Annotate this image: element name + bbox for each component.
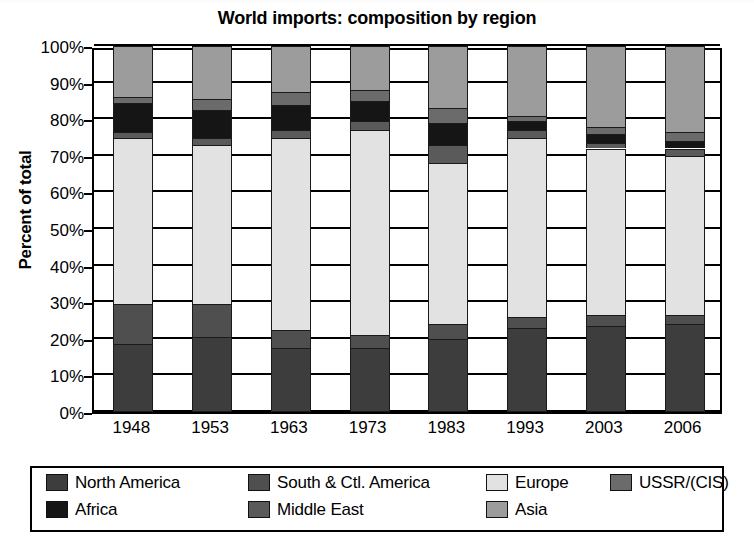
x-tick-label: 1963 [250,418,329,438]
bar-column[interactable] [507,50,547,412]
bar-segment[interactable] [271,138,311,330]
legend-swatch-icon [486,501,508,518]
bar-segment[interactable] [665,324,705,412]
bar-segment[interactable] [428,123,468,145]
gridline [94,227,720,229]
gridline [94,264,720,266]
bar-segment[interactable] [350,121,390,130]
legend-item[interactable]: Europe [486,474,569,491]
bar-column[interactable] [192,50,232,412]
bar-segment[interactable] [271,46,311,92]
bar-segment[interactable] [192,145,232,304]
bar-segment[interactable] [350,348,390,412]
legend-item[interactable]: Africa [46,501,117,518]
y-tick-label: 0% [0,404,92,424]
bar-segment[interactable] [507,138,547,317]
stacked-bar[interactable] [507,50,547,412]
bar-segment[interactable] [192,337,232,412]
bar-column[interactable] [665,50,705,412]
bar-segment[interactable] [113,138,153,305]
bar-column[interactable] [113,50,153,412]
bar-segment[interactable] [507,116,547,121]
bar-segment[interactable] [507,328,547,412]
stacked-bar[interactable] [586,50,626,412]
bar-segment[interactable] [586,315,626,326]
bar-segment[interactable] [665,141,705,148]
bar-segment[interactable] [350,335,390,348]
y-tick-mark [84,84,92,86]
bar-segment[interactable] [507,317,547,328]
y-tick-mark [84,47,92,49]
x-axis-labels: 19481953196319731983199320032006 [92,418,722,448]
stacked-bar[interactable] [113,50,153,412]
bar-segment[interactable] [507,46,547,116]
bar-segment[interactable] [113,132,153,137]
bar-column[interactable] [271,50,311,412]
bar-segment[interactable] [113,97,153,102]
bar-segment[interactable] [665,132,705,141]
bar-column[interactable] [350,50,390,412]
bar-segment[interactable] [665,149,705,156]
bar-segment[interactable] [586,143,626,148]
x-tick-label: 1948 [92,418,171,438]
legend-swatch-icon [610,474,632,491]
bar-segment[interactable] [271,105,311,131]
bar-segment[interactable] [586,149,626,316]
bar-segment[interactable] [271,130,311,137]
bar-segment[interactable] [507,121,547,130]
legend-item[interactable]: South & Ctl. America [248,474,430,491]
bar-segment[interactable] [428,145,468,163]
bar-segment[interactable] [428,163,468,324]
bar-segment[interactable] [192,110,232,137]
stacked-bar[interactable] [192,50,232,412]
legend-item[interactable]: North America [46,474,180,491]
bar-segment[interactable] [192,46,232,99]
bar-segment[interactable] [586,46,626,127]
bar-segment[interactable] [113,344,153,412]
bar-segment[interactable] [350,101,390,121]
legend-label: Middle East [277,501,364,518]
bar-segment[interactable] [665,315,705,324]
stacked-bar[interactable] [665,50,705,412]
bar-column[interactable] [586,50,626,412]
bar-segment[interactable] [350,46,390,90]
bar-segment[interactable] [192,138,232,145]
stacked-bar[interactable] [271,50,311,412]
y-tick-label: 50% [0,221,92,241]
bar-segment[interactable] [586,127,626,134]
legend-label: South & Ctl. America [277,474,430,491]
bar-column[interactable] [428,50,468,412]
bar-segment[interactable] [350,130,390,335]
gridline [94,300,720,302]
legend-item[interactable]: USSR/(CIS) [610,474,729,491]
y-tick-mark [84,267,92,269]
bar-segment[interactable] [271,330,311,348]
bar-segment[interactable] [113,46,153,97]
y-tick-mark [84,340,92,342]
legend-item[interactable]: Asia [486,501,547,518]
bar-segment[interactable] [586,134,626,143]
bar-segment[interactable] [665,156,705,315]
stacked-bar[interactable] [428,50,468,412]
bar-segment[interactable] [192,304,232,337]
bar-segment[interactable] [507,130,547,137]
bar-segment[interactable] [428,324,468,339]
y-tick-mark [84,230,92,232]
bar-segment[interactable] [428,108,468,123]
legend-item[interactable]: Middle East [248,501,364,518]
bar-segment[interactable] [586,326,626,412]
stacked-bar[interactable] [350,50,390,412]
bar-segment[interactable] [271,92,311,105]
gridline [94,190,720,192]
gridline [94,44,720,46]
bar-segment[interactable] [428,339,468,412]
bar-segment[interactable] [665,46,705,132]
y-tick-label: 80% [0,111,92,131]
bar-segment[interactable] [428,46,468,108]
bar-segment[interactable] [192,99,232,110]
bar-segment[interactable] [350,90,390,101]
bar-segment[interactable] [271,348,311,412]
legend-label: Africa [75,501,117,518]
bar-segment[interactable] [113,304,153,344]
bar-segment[interactable] [113,103,153,132]
